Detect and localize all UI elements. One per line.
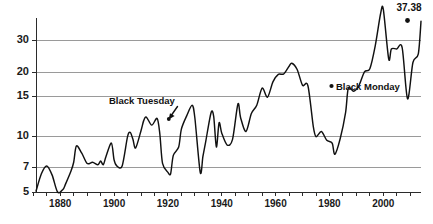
annotation-point-black-monday: [329, 84, 333, 88]
annotation-point-black-tuesday: [167, 117, 171, 121]
x-tick-label-1940: 1940: [211, 198, 234, 209]
line-chart: 30 20 15 10 7 5 188019001920194019601980…: [0, 0, 433, 224]
x-tick-label-1980: 1980: [318, 198, 341, 209]
chart-container: 30 20 15 10 7 5 188019001920194019601980…: [0, 0, 433, 224]
y-axis-labels: 30 20 15 10 7 5: [17, 33, 29, 197]
annotation-label-black-monday: Black Monday: [336, 81, 401, 92]
y-tick-label-20: 20: [17, 65, 29, 77]
x-tick-label-2000: 2000: [372, 198, 395, 209]
series-line-cape: [36, 6, 421, 192]
annotation-black-monday: Black Monday: [329, 81, 400, 92]
end-point-marker: [405, 18, 410, 23]
y-tickmarks: [32, 40, 36, 192]
y-tick-label-10: 10: [17, 129, 29, 141]
x-tick-label-1900: 1900: [103, 198, 126, 209]
y-tick-label-7: 7: [23, 160, 29, 172]
x-axis-labels: 1880190019201940196019802000: [49, 198, 395, 209]
y-tick-label-5: 5: [23, 185, 29, 197]
x-tick-label-1880: 1880: [49, 198, 72, 209]
annotation-black-tuesday: Black Tuesday: [109, 95, 178, 121]
annotation-label-black-tuesday: Black Tuesday: [109, 95, 176, 106]
y-tick-label-15: 15: [17, 89, 29, 101]
end-value-label: 37.38: [396, 2, 421, 13]
x-tick-label-1920: 1920: [157, 198, 180, 209]
annotation-end-value: 37.38: [396, 2, 421, 23]
x-tick-label-1960: 1960: [264, 198, 287, 209]
gridlines: [36, 40, 421, 167]
y-tick-label-30: 30: [17, 33, 29, 45]
